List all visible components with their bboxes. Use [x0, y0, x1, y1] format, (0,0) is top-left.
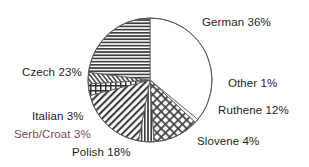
slice-label-italian: Italian 3% [32, 110, 84, 123]
slice-label-serb-croat: Serb/Croat 3% [14, 128, 91, 141]
slice-label-ruthene: Ruthene 12% [218, 104, 289, 117]
pie-chart: German 36%Other 1%Ruthene 12%Slovene 4%P… [0, 0, 309, 167]
slice-label-slovene: Slovene 4% [197, 135, 259, 148]
slice-label-german: German 36% [202, 16, 271, 29]
slice-label-polish: Polish 18% [72, 146, 131, 159]
slice-label-czech: Czech 23% [22, 66, 82, 79]
pie-slice-czech[interactable] [88, 18, 150, 80]
slice-label-other: Other 1% [228, 77, 277, 90]
